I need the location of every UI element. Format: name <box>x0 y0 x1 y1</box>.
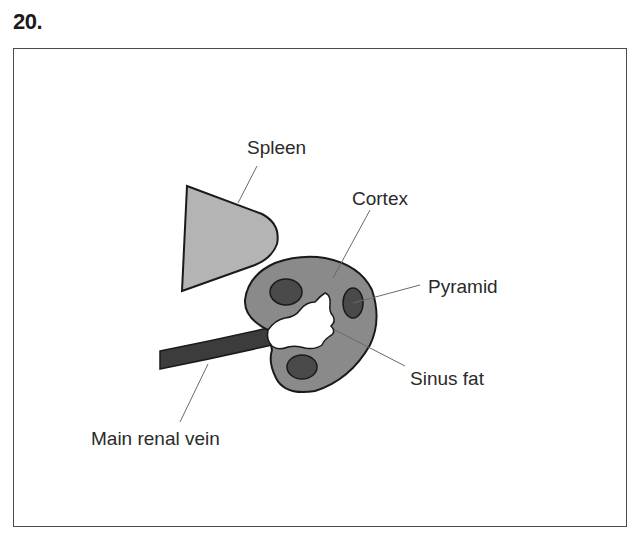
main-renal-vein-label: Main renal vein <box>91 428 220 449</box>
renal-anatomy-diagram: Spleen Cortex Pyramid Sinus fat Main ren… <box>0 0 637 543</box>
pyramid-lower-shape <box>287 355 317 379</box>
main-renal-vein-shape <box>160 328 272 369</box>
sinus-fat-label: Sinus fat <box>410 368 485 389</box>
main-renal-vein-leader-line <box>180 364 208 422</box>
pyramid-upper-shape <box>270 279 302 305</box>
spleen-label: Spleen <box>247 137 306 158</box>
spleen-leader-line <box>238 166 257 203</box>
pyramid-label: Pyramid <box>428 276 498 297</box>
cortex-label: Cortex <box>352 188 408 209</box>
